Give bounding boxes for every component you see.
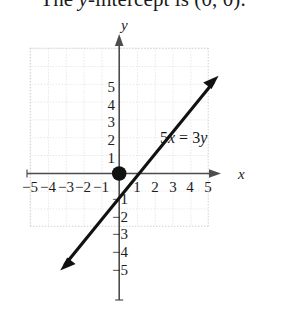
caption-prefix: The — [40, 0, 78, 11]
origin-point-marker — [112, 166, 127, 181]
caption-suffix: -intercept is (0, 0). — [88, 0, 246, 11]
y-tick-label-4: 4 — [93, 98, 115, 113]
caption-text: The y-intercept is (0, 0). — [0, 0, 286, 12]
y-tick-label--5: −5 — [104, 263, 128, 278]
y-tick-label-5: 5 — [93, 80, 115, 95]
y-tick-label--4: −4 — [104, 245, 128, 260]
x-tick-label-5: 5 — [197, 180, 219, 195]
y-axis-label: y — [121, 18, 128, 33]
y-tick-label--1: −1 — [104, 192, 128, 207]
equation-coefficient-x: 5 — [160, 129, 168, 146]
equation-relation: = — [175, 129, 192, 146]
coordinate-graph: −5 −4 −3 −2 −1 1 2 3 4 5 1 2 3 4 5 −1 −2… — [0, 14, 286, 313]
caption-variable: y — [79, 0, 88, 11]
y-tick-label-1: 1 — [93, 151, 115, 166]
equation-coefficient-y: 3 — [192, 129, 200, 146]
y-tick-label--3: −3 — [104, 227, 128, 242]
y-tick-label-3: 3 — [93, 115, 115, 130]
equation-annotation: 5x = 3y — [160, 130, 207, 146]
y-tick-label--2: −2 — [104, 210, 128, 225]
figure-page: The y-intercept is (0, 0). — [0, 0, 286, 313]
graph-canvas — [0, 14, 286, 313]
equation-var-y: y — [200, 129, 207, 146]
x-axis-label: x — [238, 167, 245, 182]
y-tick-label-2: 2 — [93, 133, 115, 148]
